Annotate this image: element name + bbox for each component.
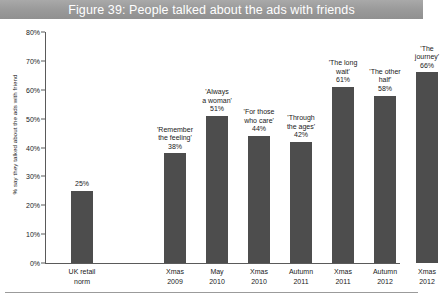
y-tick-mark [41, 32, 45, 33]
bar-label-line: 'For those [244, 108, 275, 117]
y-tick-mark [41, 176, 45, 177]
y-tick-label: 0% [30, 260, 40, 267]
x-label-line: norm [53, 277, 111, 287]
bar-label-line: 42% [287, 131, 315, 140]
bar-value-label: 'Alwaysa woman'51% [202, 88, 232, 114]
x-axis-line [45, 263, 400, 264]
bar-value-label: 'For thosewho care'44% [244, 108, 275, 134]
bar-group: 'The longwait'61% [332, 32, 354, 263]
y-tick-mark [41, 118, 45, 119]
y-tick-label: 80% [26, 29, 40, 36]
bar-value-label: 'Thejourney'66% [415, 45, 439, 71]
bar-label-line: 58% [369, 85, 400, 94]
y-tick-label: 40% [26, 144, 40, 151]
bar-label-line: a woman' [202, 97, 232, 106]
bar-label-line: wait' [329, 68, 358, 77]
bar-group: 'For thosewho care'44% [248, 32, 270, 263]
x-axis-labels: UK retailnormXmas2009May2010Xmas2010Autu… [45, 265, 400, 299]
bar[interactable] [164, 153, 186, 263]
chart-container: % say they talked about the ads with fri… [0, 19, 423, 283]
bar[interactable] [374, 96, 396, 263]
bar-label-line: 61% [329, 76, 358, 85]
bar-value-label: 'Rememberthe feeling'38% [157, 126, 193, 152]
plot-area: 0%10%20%30%40%50%60%70%80%25%'Rememberth… [45, 32, 400, 263]
y-axis-title: % say they talked about the ads with fri… [11, 35, 18, 235]
bar-group: 'Rememberthe feeling'38% [164, 32, 186, 263]
bar-label-line: 51% [202, 105, 232, 114]
x-tick-label: Xmas2012 [398, 267, 444, 286]
bar-group: 'Thejourney'66% [416, 32, 438, 263]
y-tick-mark [41, 234, 45, 235]
bar-label-line: 'Through [287, 114, 315, 123]
bar-label-line: 'Remember [157, 126, 193, 135]
bar[interactable] [248, 136, 270, 263]
y-tick-mark [41, 147, 45, 148]
bar[interactable] [332, 87, 354, 263]
bar-value-label: 'The otherhalf'58% [369, 68, 400, 94]
bar-label-line: 'The [415, 45, 439, 54]
bar[interactable] [416, 72, 438, 263]
bar-label-line: 38% [157, 143, 193, 152]
y-tick-mark [41, 263, 45, 264]
bar-value-label: 'Throughthe ages'42% [287, 114, 315, 140]
bar-label-line: 25% [75, 180, 89, 189]
y-tick-label: 20% [26, 202, 40, 209]
bar-label-line: 'The long [329, 59, 358, 68]
footer-divider [5, 292, 418, 293]
bar-label-line: the feeling' [157, 134, 193, 143]
bar-label-line: the ages' [287, 123, 315, 132]
bar-label-line: 'The other [369, 68, 400, 77]
bar-group: 'Alwaysa woman'51% [206, 32, 228, 263]
bar-label-line: 66% [415, 62, 439, 71]
y-tick-label: 30% [26, 173, 40, 180]
bar[interactable] [206, 116, 228, 263]
bar[interactable] [71, 191, 93, 263]
y-tick-mark [41, 89, 45, 90]
y-tick-mark [41, 205, 45, 206]
bar-label-line: who care' [244, 117, 275, 126]
page-title: Figure 39: People talked about the ads w… [68, 3, 355, 17]
y-tick-label: 70% [26, 57, 40, 64]
y-tick-label: 50% [26, 115, 40, 122]
bar-label-line: 44% [244, 125, 275, 134]
bar-group: 25% [71, 32, 93, 263]
x-label-line: Xmas [398, 267, 444, 277]
x-label-line: 2012 [398, 277, 444, 287]
bar-label-line: journey' [415, 53, 439, 62]
y-tick-label: 10% [26, 231, 40, 238]
bar-group: 'Throughthe ages'42% [290, 32, 312, 263]
figure-title-banner: Figure 39: People talked about the ads w… [0, 0, 423, 19]
bar-group: 'The otherhalf'58% [374, 32, 396, 263]
bar[interactable] [290, 142, 312, 263]
bar-label-line: half' [369, 76, 400, 85]
x-tick-label: UK retailnorm [53, 267, 111, 286]
bar-label-line: 'Always [202, 88, 232, 97]
x-label-line: UK retail [53, 267, 111, 277]
bar-value-label: 'The longwait'61% [329, 59, 358, 85]
bar-value-label: 25% [75, 180, 89, 189]
y-tick-mark [41, 60, 45, 61]
y-tick-label: 60% [26, 86, 40, 93]
